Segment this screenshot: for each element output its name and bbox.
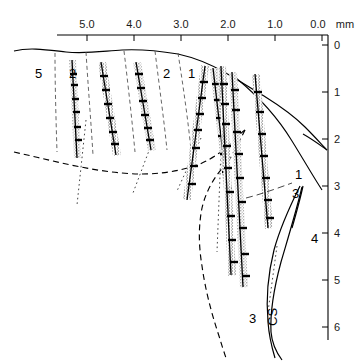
- xtick-5: 5.0: [79, 18, 94, 30]
- ytick-6: 6: [334, 321, 340, 333]
- electrode-tracks: [69, 60, 274, 288]
- label-area-5: 5: [35, 66, 42, 81]
- track-4: [183, 65, 209, 200]
- top-axis: [57, 35, 328, 41]
- xtick-1: 1.0: [267, 18, 282, 30]
- track-3: [133, 62, 156, 151]
- ytick-2: 2: [334, 133, 340, 145]
- block-right-flank: [236, 78, 322, 190]
- track-8: [252, 74, 274, 229]
- xtick-2: 2.0: [220, 18, 235, 30]
- top-axis-labels: 5.0 4.0 3.0 2.0 1.0 0.0 mm: [79, 18, 354, 30]
- ytick-4: 4: [334, 227, 340, 239]
- right-axis: [322, 35, 328, 340]
- xtick-3: 3.0: [173, 18, 188, 30]
- white-matter-boundary: [14, 130, 245, 174]
- track-2: [98, 62, 121, 156]
- label-area-1-top: 1: [188, 66, 195, 81]
- label-area-3-lower: 3: [249, 311, 256, 326]
- label-area-2-right: 2: [163, 66, 170, 81]
- unit-label: mm: [336, 18, 354, 30]
- label-area-3-upper: 3: [292, 186, 299, 201]
- label-area-4: 4: [311, 231, 318, 246]
- cortex-outline: [14, 49, 327, 150]
- deep-boundary-descending: [199, 162, 228, 358]
- right-axis-labels: 0 1 2 3 4 5 6: [334, 39, 340, 333]
- ytick-5: 5: [334, 274, 340, 286]
- ytick-0: 0: [334, 39, 340, 51]
- ytick-1: 1: [334, 86, 340, 98]
- xtick-4: 4.0: [126, 18, 141, 30]
- label-central-sulcus: CS: [265, 308, 280, 326]
- label-area-2-left: 2: [69, 66, 76, 81]
- xtick-0: 0.0: [310, 18, 325, 30]
- ytick-3: 3: [334, 180, 340, 192]
- figure-root: 5 2 2 1 1 3 4 3 CS 5.0 4.0 3.0 2.0 1.0 0…: [0, 0, 360, 362]
- section-diagram: 5 2 2 1 1 3 4 3 CS 5.0 4.0 3.0 2.0 1.0 0…: [0, 0, 360, 362]
- label-area-1-lower: 1: [295, 167, 302, 182]
- central-sulcus-walls: [267, 186, 303, 360]
